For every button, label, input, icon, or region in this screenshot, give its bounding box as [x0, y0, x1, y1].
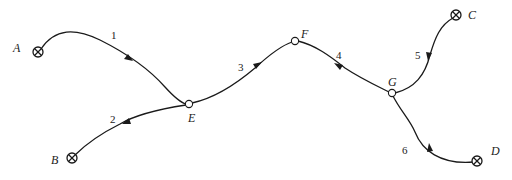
label-g: G: [388, 75, 397, 89]
network-diagram: A B C D E F G 1 2 3 4 5 6: [0, 0, 512, 180]
edge-label-1: 1: [111, 29, 117, 41]
edge-label-4: 4: [336, 49, 342, 61]
label-f: F: [300, 27, 309, 41]
arrow-edge-1-icon: [124, 54, 133, 61]
edge-label-3: 3: [238, 61, 244, 73]
terminal-c: [451, 10, 461, 20]
edge-label-2: 2: [110, 113, 116, 125]
junction-f-icon: [291, 37, 298, 44]
label-c: C: [468, 8, 477, 22]
arrow-edge-4-icon: [334, 63, 343, 70]
junction-g-icon: [388, 89, 395, 96]
edge-label-5: 5: [415, 49, 421, 61]
edge-2: [75, 105, 186, 155]
label-d: D: [490, 144, 500, 158]
label-e: E: [187, 111, 196, 125]
edge-5: [395, 18, 453, 93]
junction-e-icon: [185, 100, 192, 107]
edge-label-6: 6: [402, 144, 408, 156]
label-b: B: [51, 153, 59, 167]
terminal-b: [67, 153, 77, 163]
label-a: A: [12, 41, 21, 55]
arrow-edge-6-icon: [427, 143, 433, 152]
edge-1: [41, 32, 186, 104]
terminal-a: [33, 47, 43, 57]
edge-4: [298, 41, 389, 92]
terminal-d: [472, 156, 482, 166]
